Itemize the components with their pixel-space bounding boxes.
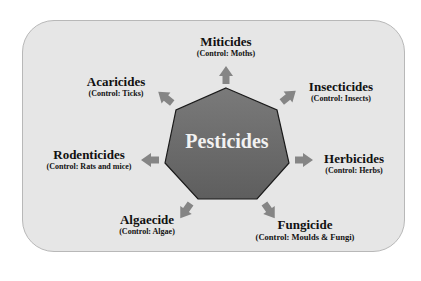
node-miticides: Miticides (Control: Moths) [186,35,266,59]
node-control: (Control: Ticks) [82,89,150,99]
center-label: Pesticides [163,130,291,153]
node-name: Rodenticides [34,148,144,162]
node-herbicides: Herbicides (Control: Herbs) [316,152,392,176]
node-acaricides: Acaricides (Control: Ticks) [82,75,150,99]
node-control: (Control: Algae) [112,227,182,237]
arrow-upper-right-icon [277,85,300,107]
node-name: Acaricides [82,75,150,89]
arrow-up-icon [219,66,233,84]
node-algaecide: Algaecide (Control: Algae) [112,213,182,237]
arrow-upper-left-icon [154,86,177,108]
node-fungicide: Fungicide (Control: Moulds & Fungi) [245,218,365,242]
node-rodenticides: Rodenticides (Control: Rats and mice) [34,148,144,172]
arrow-right-icon [295,153,313,167]
node-name: Miticides [186,35,266,49]
node-name: Fungicide [245,218,365,232]
node-insecticides: Insecticides (Control: Insects) [300,80,382,104]
node-control: (Control: Moths) [186,49,266,59]
node-control: (Control: Herbs) [316,166,392,176]
node-name: Insecticides [300,80,382,94]
node-control: (Control: Insects) [300,94,382,104]
node-name: Algaecide [112,213,182,227]
node-control: (Control: Rats and mice) [34,162,144,172]
node-control: (Control: Moulds & Fungi) [245,232,365,242]
node-name: Herbicides [316,152,392,166]
